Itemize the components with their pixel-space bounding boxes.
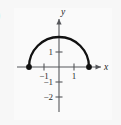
endpoint-left xyxy=(26,64,32,70)
coordinate-plot: −1 1 1 −1 −2 x y xyxy=(0,0,121,125)
y-axis-arrowhead xyxy=(56,19,61,25)
y-tick-label-minus-one: −1 xyxy=(43,77,53,87)
x-axis-arrowhead xyxy=(96,64,102,69)
y-tick-label-one: 1 xyxy=(49,47,54,57)
x-tick-label-one: 1 xyxy=(72,71,77,81)
y-axis-label: y xyxy=(60,7,66,17)
y-tick-label-minus-two: −2 xyxy=(43,92,53,102)
figure-container: ) −1 1 1 −1 −2 x y xyxy=(0,0,121,125)
x-axis-label: x xyxy=(103,62,109,72)
endpoint-right xyxy=(86,64,92,70)
